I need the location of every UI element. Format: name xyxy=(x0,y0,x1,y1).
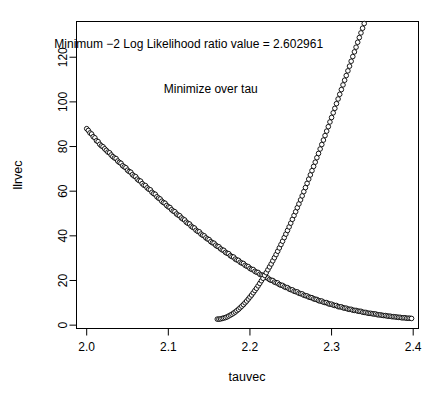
data-point-marker xyxy=(342,78,347,83)
x-tick-label: 2.0 xyxy=(78,340,95,354)
data-point-marker xyxy=(359,31,364,36)
data-point-marker xyxy=(328,120,333,125)
profile-likelihood-plot: 2.02.12.22.32.4 020406080100120 Minimum … xyxy=(0,0,440,401)
data-point-marker xyxy=(339,87,344,92)
data-point-marker xyxy=(341,83,346,88)
x-tick-label: 2.4 xyxy=(405,340,422,354)
y-tick-label: 100 xyxy=(57,92,71,112)
data-point-marker xyxy=(324,129,329,134)
data-point-marker xyxy=(350,54,355,59)
data-point-marker xyxy=(347,64,352,69)
data-point-marker xyxy=(360,26,365,31)
y-tick-label: 20 xyxy=(57,274,71,288)
data-point-marker xyxy=(319,142,324,147)
minimum-value-annotation: Minimum −2 Log Likelihood ratio value = … xyxy=(54,37,323,51)
data-point-marker xyxy=(357,35,362,40)
chart-container: 2.02.12.22.32.4 020406080100120 Minimum … xyxy=(0,0,440,401)
y-tick-label: 80 xyxy=(57,140,71,154)
data-point-marker xyxy=(355,40,360,45)
x-axis-title: tauvec xyxy=(229,370,266,384)
data-point-marker xyxy=(331,111,336,116)
data-point-marker xyxy=(333,106,338,111)
data-point-marker xyxy=(326,124,331,129)
data-point-marker xyxy=(316,151,321,156)
data-point-marker xyxy=(323,133,328,138)
data-point-marker xyxy=(329,115,334,120)
data-point-marker xyxy=(362,21,367,26)
data-point-marker xyxy=(334,101,339,106)
y-tick-label: 60 xyxy=(57,184,71,198)
data-point-marker xyxy=(321,138,326,143)
data-point-marker xyxy=(344,73,349,78)
minimize-over-tau-annotation: Minimize over tau xyxy=(164,82,258,96)
x-tick-label: 2.1 xyxy=(160,340,177,354)
data-point-marker xyxy=(313,160,318,165)
y-axis-title: llrvec xyxy=(11,160,25,189)
data-point-marker xyxy=(409,316,414,321)
y-tick-label: 40 xyxy=(57,229,71,243)
data-point-marker xyxy=(318,147,323,152)
data-point-marker xyxy=(352,50,357,55)
data-point-marker xyxy=(337,92,342,97)
x-tick-label: 2.2 xyxy=(242,340,259,354)
data-point-marker xyxy=(349,59,354,64)
data-point-marker xyxy=(354,45,359,50)
y-tick-label: 0 xyxy=(57,321,71,328)
data-point-marker xyxy=(336,97,341,102)
data-point-marker xyxy=(346,69,351,74)
x-tick-label: 2.3 xyxy=(323,340,340,354)
